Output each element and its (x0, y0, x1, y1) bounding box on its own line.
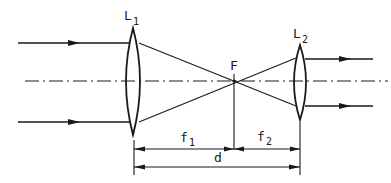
f2-subscript: 2 (266, 136, 272, 147)
arrow-left-icon (234, 147, 244, 152)
lens-l1-label: L (124, 8, 132, 23)
arrow-right-icon (68, 40, 80, 46)
outgoing-rays (305, 56, 373, 109)
lens-l2-subscript: 2 (302, 34, 308, 45)
arrow-right-icon (289, 165, 300, 170)
arrow-right-icon (339, 56, 351, 62)
dimension-lines (134, 122, 300, 175)
f2-label: f (257, 129, 265, 144)
lens-l1-subscript: 1 (133, 16, 139, 27)
incoming-rays (18, 40, 130, 125)
arrow-right-icon (224, 147, 234, 152)
arrow-left-icon (134, 165, 145, 170)
lens-l2 (294, 45, 306, 120)
arrow-right-icon (339, 103, 351, 109)
arrow-right-icon (68, 119, 80, 125)
telescope-diagram: L 1 F L 2 f 1 f 2 d (0, 0, 391, 183)
focal-point-label: F (230, 58, 238, 73)
arrow-right-icon (290, 147, 300, 152)
arrow-left-icon (134, 147, 145, 152)
focal-point (232, 79, 235, 82)
converging-rays (139, 43, 296, 122)
distance-label: d (214, 150, 222, 165)
f1-label: f (180, 130, 188, 145)
f1-subscript: 1 (189, 137, 195, 148)
lens-l2-label: L (293, 26, 301, 41)
